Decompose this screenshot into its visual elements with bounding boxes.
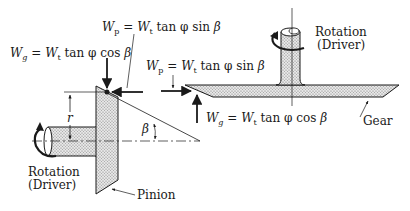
rotation-label-right-2: (Driver) bbox=[317, 38, 365, 52]
rotation-label-left-2: (Driver) bbox=[28, 178, 76, 192]
rotation-arrowhead-left bbox=[36, 122, 44, 131]
wp-label-right: Wp = Wt tan φ sin β bbox=[146, 59, 265, 75]
rotation-label-left-1: Rotation bbox=[28, 165, 80, 179]
wg-label-left: Wg = Wt tan φ cos β bbox=[10, 46, 131, 62]
rotation-label-right-1: Rotation bbox=[315, 25, 367, 39]
pinion-contact-point bbox=[105, 90, 110, 95]
r-label: r bbox=[67, 111, 74, 125]
beta-arc bbox=[154, 124, 155, 139]
pinion-label: Pinion bbox=[137, 188, 176, 202]
pinion-leader bbox=[112, 189, 135, 195]
pitch-cone-line bbox=[105, 92, 200, 141]
wg-label-right: Wg = Wt tan φ cos β bbox=[206, 111, 327, 127]
rotation-arrowhead-right bbox=[270, 31, 278, 40]
gear-label: Gear bbox=[363, 114, 393, 128]
beta-label: β bbox=[141, 122, 149, 136]
wp-top-leader bbox=[127, 34, 134, 88]
bevel-gear-diagram: r β Rotation (Driver) Pinion Wg = Wt tan… bbox=[0, 0, 410, 211]
wp-label-top: Wp = Wt tan φ sin β bbox=[102, 20, 221, 36]
